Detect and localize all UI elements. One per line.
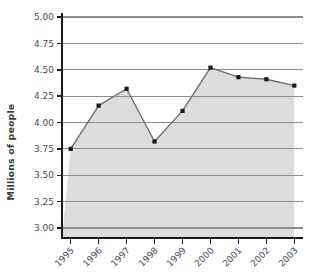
y-axis-tick-labels: 5.004.754.504.254.003.753.503.253.00 [34,12,54,233]
y-axis-tick-label: 3.00 [34,223,54,233]
y-axis-title: Millions of people [5,104,16,201]
y-axis-tick-label: 4.50 [34,65,54,75]
y-axis-tick-label: 3.50 [34,170,54,180]
y-axis-tick-label: 5.00 [34,12,54,22]
y-axis-tick-label: 3.25 [34,197,54,207]
y-axis-tick-label: 4.00 [34,118,54,128]
line-area-chart: 5.004.754.504.254.003.753.503.253.00 199… [0,0,312,278]
chart-container: 5.004.754.504.254.003.753.503.253.00 199… [0,0,312,278]
y-axis-tick-label: 4.75 [34,39,54,49]
y-axis-tick-label: 4.25 [34,91,54,101]
y-axis-tick-label: 3.75 [34,144,54,154]
